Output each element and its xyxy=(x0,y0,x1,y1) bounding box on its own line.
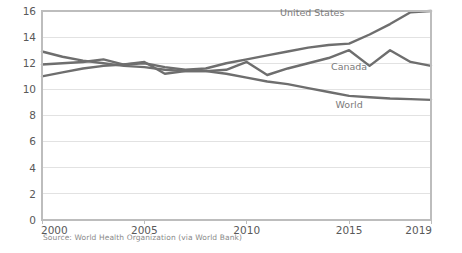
source-note: Source: World Health Organization (via W… xyxy=(43,233,242,242)
x-tick-label-2019: 2019 xyxy=(405,224,432,236)
series-label-united-states: United States xyxy=(280,7,344,18)
y-tick-label-12: 12 xyxy=(23,57,36,69)
y-tick-label-2: 2 xyxy=(29,188,36,200)
x-tick-label-2015: 2015 xyxy=(336,224,363,236)
y-tick-label-14: 14 xyxy=(23,31,37,43)
y-tick-label-4: 4 xyxy=(29,162,36,174)
y-tick-label-16: 16 xyxy=(23,5,37,17)
y-tick-label-8: 8 xyxy=(29,109,36,121)
line-chart-figure: 0246810121416 20002005201020152019 Unite… xyxy=(0,0,462,253)
series-label-world: World xyxy=(335,99,362,110)
series-label-canada: Canada xyxy=(331,61,367,72)
y-tick-label-10: 10 xyxy=(23,83,36,95)
y-tick-label-6: 6 xyxy=(29,135,36,147)
y-tick-label-0: 0 xyxy=(29,214,36,226)
